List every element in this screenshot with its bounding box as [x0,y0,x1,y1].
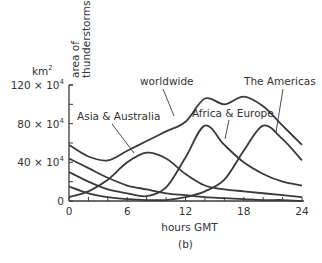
y-unit-label: km2 [32,64,53,77]
x-tick-label: 24 [295,205,309,217]
y-tick-label: 40 × 104 [17,155,64,168]
x-tick-label: 6 [124,205,131,217]
y-tick-label: 0 [57,195,64,207]
x-tick-label: 12 [179,205,192,217]
figure-caption: (b) [178,238,193,250]
label-africa-europe-leader [225,120,229,139]
y-tick-label: 120 × 104 [11,78,65,91]
thunderstorm-chart: 06121824040 × 10480 × 104120 × 104km2are… [0,0,322,263]
x-tick-label: 0 [66,205,73,217]
curve-residual-decay [69,158,302,201]
label-worldwide: worldwide [140,75,194,87]
label-the-americas: The Americas [243,75,316,87]
label-asia-australia-leader [112,124,134,153]
label-asia-australia: Asia & Australia [77,110,160,122]
labels: worldwideAsia & AustraliaAfrica & Europe… [77,75,316,153]
label-worldwide-leader [163,89,174,116]
y-axis-title: thunderstorms [80,1,92,78]
y-tick-label: 80 × 104 [17,117,64,130]
label-africa-europe: Africa & Europe [192,107,274,119]
x-axis-title: hours GMT [161,221,218,233]
chart-svg: 06121824040 × 10480 × 104120 × 104km2are… [0,0,322,263]
x-tick-label: 18 [237,205,250,217]
